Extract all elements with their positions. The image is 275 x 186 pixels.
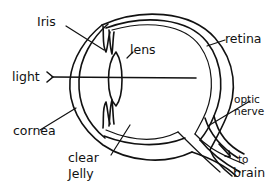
label-lens: lens [130,42,156,57]
retina [106,20,221,140]
label-cornea: cornea [13,123,56,138]
label-optic: optic [234,93,260,105]
label-clear: clear [68,150,100,165]
eye-diagram: Iris lens retina light cornea optic nerv… [0,0,275,186]
light-arrow-icon [47,72,53,82]
label-iris: Iris [37,14,56,29]
label-nerve: nerve [234,105,264,117]
label-retina: retina [225,31,262,46]
label-light: light [12,69,40,84]
lens [109,52,123,106]
label-jelly: Jelly [67,166,94,181]
eyeball-outer [70,14,234,160]
light-ray [52,77,196,78]
label-to: to [238,153,249,165]
vitreous-inner [104,130,185,145]
label-brain: brain [233,165,265,180]
